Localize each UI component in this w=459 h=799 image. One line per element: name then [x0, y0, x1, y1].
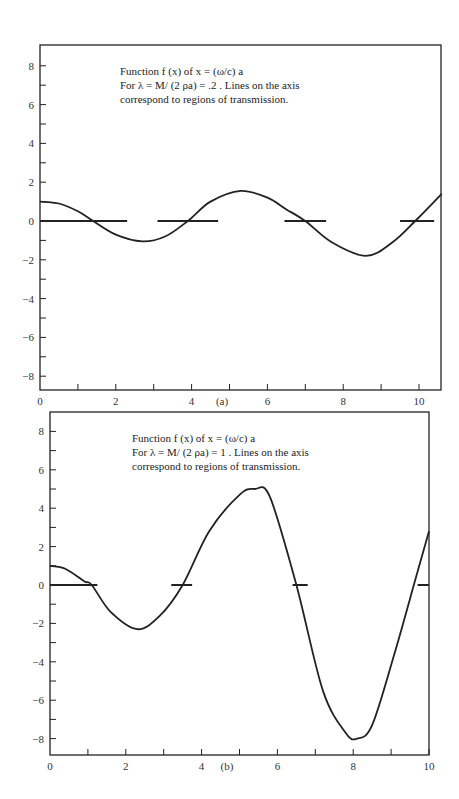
x-tick-label: 10: [414, 395, 426, 407]
x-tick-label: 4: [199, 760, 205, 772]
x-tick-label: 0: [47, 760, 53, 772]
y-tick-label: −8: [22, 370, 34, 382]
chart-panel-b: −8−6−4−2024680246810(b)Function f (x) of…: [32, 412, 435, 773]
function-curve: [40, 191, 442, 256]
x-tick-label: 6: [265, 395, 271, 407]
function-curve: [50, 487, 429, 739]
annotation-line: For λ = M/ (2 ρa) = .2 . Lines on the ax…: [120, 79, 300, 92]
x-tick-label: 2: [113, 395, 119, 407]
panel-label: (b): [221, 760, 234, 773]
panel-label: (a): [216, 395, 229, 408]
y-tick-label: 4: [39, 502, 45, 514]
y-tick-label: 4: [29, 137, 35, 149]
x-tick-label: 4: [189, 395, 195, 407]
y-tick-label: −8: [32, 733, 44, 745]
y-tick-label: −2: [22, 254, 34, 266]
annotation-line: Function f (x) of x = (ω/c) a: [120, 65, 243, 78]
chart-panel-a: −8−6−4−2024680246810(a)Function f (x) of…: [22, 45, 441, 408]
x-tick-label: 8: [350, 760, 356, 772]
x-tick-label: 2: [123, 760, 129, 772]
x-tick-label: 10: [424, 760, 436, 772]
y-tick-label: −6: [32, 694, 44, 706]
y-tick-label: −6: [22, 331, 34, 343]
y-tick-label: 6: [39, 464, 45, 476]
y-tick-label: 2: [39, 541, 45, 553]
y-tick-label: 2: [29, 176, 35, 188]
y-tick-label: 8: [29, 60, 35, 72]
y-tick-label: 0: [29, 215, 35, 227]
x-tick-label: 8: [340, 395, 346, 407]
y-tick-label: 8: [39, 425, 45, 437]
x-tick-label: 6: [275, 760, 281, 772]
annotation-line: correspond to regions of transmission.: [132, 460, 301, 472]
annotation-line: correspond to regions of transmission.: [120, 93, 289, 105]
figure-canvas: −8−6−4−2024680246810(a)Function f (x) of…: [0, 0, 459, 799]
y-tick-label: 6: [29, 99, 35, 111]
x-tick-label: 0: [37, 395, 43, 407]
annotation-line: For λ = M/ (2 ρa) = 1 . Lines on the axi…: [132, 446, 309, 459]
y-tick-label: −4: [22, 293, 34, 305]
annotation-line: Function f (x) of x = (ω/c) a: [132, 432, 255, 445]
y-tick-label: −2: [32, 617, 44, 629]
y-tick-label: −4: [32, 656, 44, 668]
y-tick-label: 0: [39, 579, 45, 591]
